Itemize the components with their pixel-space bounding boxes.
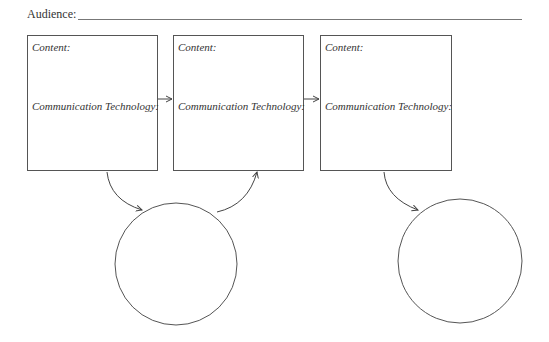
curved-arrow-icon [107, 172, 142, 210]
circle-2 [398, 199, 522, 323]
connectors [0, 0, 549, 342]
curved-arrow-icon [384, 172, 418, 210]
curved-arrow-icon [217, 172, 257, 212]
circle-1 [115, 203, 237, 325]
